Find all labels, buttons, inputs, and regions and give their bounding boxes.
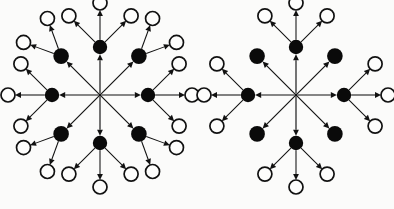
white-node	[40, 164, 54, 178]
black-node-southwest	[249, 126, 265, 142]
white-node	[368, 57, 382, 71]
left-diagram-L-SW-to-leaf-1-line	[36, 137, 54, 144]
white-node	[146, 12, 160, 26]
white-node	[172, 57, 186, 71]
left-diagram-L-NE-to-leaf-0-arrowhead	[145, 25, 150, 32]
left-diagram-L-W-to-leaf-1-line	[30, 100, 47, 117]
white-node	[258, 9, 272, 23]
white-node	[93, 0, 107, 10]
left-diagram-hub-to-L-SE-line	[101, 96, 129, 124]
white-node	[124, 167, 138, 181]
right-diagram-R-N-to-leaf-1-line	[274, 25, 291, 42]
left-diagram-L-W-to-leaf-2-line	[30, 73, 47, 90]
black-node-southwest	[53, 126, 69, 142]
black-node-west	[45, 88, 59, 102]
left-diagram-L-N-to-leaf-0-arrowhead	[97, 10, 103, 16]
white-node	[169, 35, 183, 49]
left-diagram-L-E-to-leaf-0-arrowhead	[179, 92, 185, 98]
white-node	[62, 9, 76, 23]
white-node	[197, 88, 211, 102]
white-node	[320, 9, 334, 23]
left-diagram-hub-to-L-NE-line	[101, 66, 129, 94]
right-diagram-hub-to-R-S-arrowhead	[293, 130, 299, 136]
white-node	[40, 12, 54, 26]
left-diagram-L-SE-to-leaf-0-line	[146, 137, 164, 144]
left-diagram-L-E-to-leaf-1-line	[153, 73, 170, 90]
white-node	[368, 119, 382, 133]
white-node	[172, 119, 186, 133]
left-diagram-hub-to-L-S-arrowhead	[97, 130, 103, 136]
right-diagram-R-W-to-leaf-0-arrowhead	[211, 92, 217, 98]
white-node	[289, 180, 303, 194]
left-diagram-L-SE-to-leaf-0-arrowhead	[163, 140, 170, 145]
black-node-west	[241, 88, 255, 102]
right-diagram-R-S-to-leaf-1-line	[301, 148, 318, 165]
black-node-south	[93, 136, 107, 150]
right-diagram-R-N-to-leaf-0-arrowhead	[293, 10, 299, 16]
left-diagram-L-NE-to-leaf-0-line	[142, 31, 149, 49]
right-diagram-R-S-to-leaf-0-arrowhead	[293, 174, 299, 180]
white-node	[17, 141, 31, 155]
left-diagram-L-N-to-leaf-1-line	[78, 25, 95, 42]
black-node-north	[93, 40, 107, 54]
black-node-northeast	[327, 48, 343, 64]
left-diagram-L-NW-to-leaf-1-arrowhead	[49, 25, 54, 32]
left-diagram-hub-to-L-N-arrowhead	[97, 54, 103, 60]
right-diagram-hub-to-R-W-arrowhead	[255, 92, 261, 98]
radial-graph-figure	[0, 0, 394, 209]
left-diagram-L-NW-to-leaf-1-line	[52, 31, 59, 49]
black-node-south	[289, 136, 303, 150]
black-node-northeast	[131, 48, 147, 64]
right-diagram-hub-to-R-NW-line	[267, 66, 295, 94]
white-node	[14, 57, 28, 71]
white-node	[320, 167, 334, 181]
left-diagram-L-SE-to-leaf-1-line	[142, 141, 149, 159]
figure-root	[0, 0, 394, 209]
left-diagram-L-NW-to-leaf-0-arrowhead	[30, 44, 37, 49]
white-node	[124, 9, 138, 23]
left-diagram-hub-to-L-E-arrowhead	[135, 92, 141, 98]
hub-node	[98, 93, 101, 96]
right-diagram-hub-to-R-SE-line	[297, 96, 325, 124]
white-node	[169, 141, 183, 155]
black-node-north	[289, 40, 303, 54]
left-diagram-L-N-to-leaf-2-line	[105, 25, 122, 42]
white-node	[62, 167, 76, 181]
right-diagram-hub-to-R-E-arrowhead	[331, 92, 337, 98]
left-diagram-L-W-to-leaf-0-arrowhead	[15, 92, 21, 98]
left-diagram-L-S-to-leaf-2-line	[78, 148, 95, 165]
right-diagram-hub-to-R-SW-line	[267, 96, 295, 124]
left-diagram-L-S-to-leaf-1-line	[105, 148, 122, 165]
white-node	[17, 35, 31, 49]
right-diagram-R-N-to-leaf-2-line	[301, 25, 318, 42]
right-diagram-R-E-to-leaf-1-line	[349, 73, 366, 90]
black-node-east	[337, 88, 351, 102]
right-diagram-R-W-to-leaf-1-line	[226, 100, 243, 117]
left-diagram-L-E-to-leaf-2-line	[153, 100, 170, 117]
left-diagram-L-SW-to-leaf-0-line	[52, 141, 59, 159]
white-node	[289, 0, 303, 10]
left-diagram-hub-to-L-NW-line	[71, 66, 99, 94]
black-node-southeast	[131, 126, 147, 142]
black-node-southeast	[327, 126, 343, 142]
left-diagram-L-S-to-leaf-0-arrowhead	[97, 174, 103, 180]
right-diagram-hub-to-R-NE-line	[297, 66, 325, 94]
right-diagram-R-E-to-leaf-0-arrowhead	[375, 92, 381, 98]
hub-node	[294, 93, 297, 96]
right-diagram-R-E-to-leaf-2-line	[349, 100, 366, 117]
black-node-northwest	[53, 48, 69, 64]
white-node	[14, 119, 28, 133]
white-node	[210, 119, 224, 133]
white-node	[258, 167, 272, 181]
left-diagram-hub-to-L-SW-line	[71, 96, 99, 124]
white-node	[210, 57, 224, 71]
right-diagram-hub-to-R-N-arrowhead	[293, 54, 299, 60]
left-diagram	[1, 0, 199, 194]
left-diagram-L-NE-to-leaf-1-line	[146, 47, 164, 54]
black-node-east	[141, 88, 155, 102]
white-node	[93, 180, 107, 194]
left-diagram-L-NW-to-leaf-0-line	[36, 47, 54, 54]
white-node	[146, 164, 160, 178]
right-diagram-R-W-to-leaf-2-line	[226, 73, 243, 90]
left-diagram-L-SW-to-leaf-0-arrowhead	[49, 158, 54, 165]
